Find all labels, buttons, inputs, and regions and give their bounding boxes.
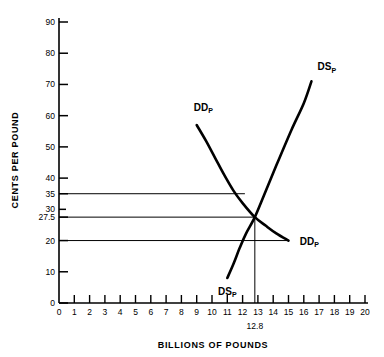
x-tick-label: 1 bbox=[72, 307, 77, 317]
x-tick-label: 13 bbox=[253, 307, 263, 317]
demand-curve-label-upper: DDP bbox=[194, 102, 213, 115]
y-tick-label: 35 bbox=[46, 189, 56, 199]
curve-label-base: DD bbox=[300, 236, 314, 247]
x-tick-label: 10 bbox=[207, 307, 217, 317]
x-tick-label: 11 bbox=[223, 307, 232, 317]
supply-curve bbox=[227, 81, 311, 278]
y-tick-label: 60 bbox=[46, 111, 56, 121]
annotations-group: 12.8 bbox=[247, 321, 264, 331]
demand-curve bbox=[197, 125, 289, 241]
curves-group bbox=[197, 81, 312, 278]
x-tick-label: 19 bbox=[345, 307, 355, 317]
x-tick-label: 14 bbox=[268, 307, 278, 317]
y-tick-label: 20 bbox=[46, 236, 56, 246]
x-tick-label: 7 bbox=[164, 307, 169, 317]
y-tick-label: 30 bbox=[46, 204, 56, 214]
curve-label-subscript: P bbox=[331, 67, 336, 74]
x-tick-label: 2 bbox=[87, 307, 92, 317]
curve-labels-group: DDPDDPDSPDSP bbox=[194, 61, 337, 298]
x-tick-label: 15 bbox=[284, 307, 294, 317]
x-tick-label: 16 bbox=[299, 307, 309, 317]
y-tick-label: 10 bbox=[46, 267, 56, 277]
chart-plot-area: 0102027.53035405060708090 01234567891011… bbox=[0, 0, 384, 357]
x-tick-label: 0 bbox=[57, 307, 62, 317]
x-tick-label: 8 bbox=[179, 307, 184, 317]
x-tick-label: 6 bbox=[148, 307, 153, 317]
x-tick-label: 12 bbox=[238, 307, 248, 317]
demand-curve-label-lower: DDP bbox=[300, 236, 319, 249]
x-tick-label: 9 bbox=[194, 307, 199, 317]
x-axis-ticks: 01234567891011121314151617181920 bbox=[57, 295, 370, 317]
y-tick-label: 90 bbox=[46, 17, 56, 27]
curve-label-subscript: P bbox=[208, 107, 213, 114]
y-tick-label: 40 bbox=[46, 173, 56, 183]
y-tick-label: 50 bbox=[46, 142, 56, 152]
y-axis-title: CENTS PER POUND bbox=[10, 111, 20, 208]
y-tick-label: 80 bbox=[46, 48, 56, 58]
curve-label-base: DS bbox=[218, 286, 232, 297]
supply-curve-label-upper: DSP bbox=[318, 61, 337, 74]
y-tick-label: 0 bbox=[50, 298, 55, 308]
equilibrium-quantity-annotation: 12.8 bbox=[247, 321, 264, 331]
curve-label-subscript: P bbox=[232, 291, 237, 298]
curve-label-base: DD bbox=[194, 102, 208, 113]
supply-curve-label-lower: DSP bbox=[218, 286, 237, 299]
x-tick-label: 18 bbox=[330, 307, 340, 317]
x-axis-title: BILLIONS OF POUNDS bbox=[158, 340, 269, 350]
x-tick-label: 5 bbox=[133, 307, 138, 317]
curve-label-base: DS bbox=[318, 61, 332, 72]
y-tick-label: 70 bbox=[46, 79, 56, 89]
x-tick-label: 17 bbox=[314, 307, 324, 317]
curve-label-subscript: P bbox=[314, 241, 319, 248]
y-axis-ticks: 0102027.53035405060708090 bbox=[38, 17, 68, 308]
x-tick-label: 4 bbox=[118, 307, 123, 317]
reference-lines-group bbox=[59, 194, 288, 303]
supply-demand-chart-figure: 0102027.53035405060708090 01234567891011… bbox=[0, 0, 384, 357]
x-tick-label: 20 bbox=[360, 307, 370, 317]
x-tick-label: 3 bbox=[103, 307, 108, 317]
